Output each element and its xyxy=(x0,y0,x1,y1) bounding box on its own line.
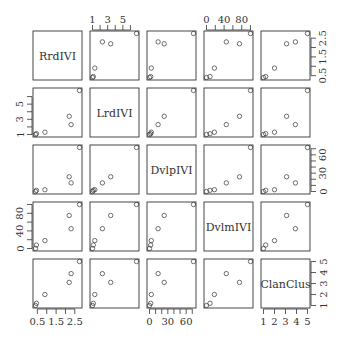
panel-frame xyxy=(33,88,82,137)
data-point xyxy=(212,66,216,70)
panel-RrdIVI-vs-LrdIVI xyxy=(90,31,139,80)
data-point xyxy=(191,31,195,35)
data-point xyxy=(67,175,71,179)
data-point xyxy=(156,40,160,44)
data-point xyxy=(93,238,97,242)
data-point xyxy=(293,227,297,231)
data-point xyxy=(77,88,81,92)
data-point xyxy=(305,88,309,92)
tick-label: 30 xyxy=(318,167,329,180)
panel-ClanClus-vs-DvlmIVI xyxy=(204,259,253,308)
tick-label: 0 xyxy=(203,14,209,25)
tick-label: 1.5 xyxy=(48,316,64,327)
tick-label: 0 xyxy=(318,188,329,194)
tick-label: 60 xyxy=(180,316,193,327)
tick-label: 2.5 xyxy=(318,30,329,46)
tick-label: 0.5 xyxy=(29,316,45,327)
data-point xyxy=(284,42,288,46)
data-point xyxy=(224,181,228,185)
panel-frame xyxy=(90,202,139,251)
tick-label: 2.5 xyxy=(67,316,83,327)
data-point xyxy=(67,114,71,118)
panel-frame xyxy=(204,259,253,308)
data-point xyxy=(149,132,153,136)
tick-label: 4 xyxy=(318,269,329,275)
data-point xyxy=(77,145,81,149)
data-point xyxy=(212,292,216,296)
data-point xyxy=(93,292,97,296)
left-axis-LrdIVI: 135 xyxy=(15,97,33,138)
panel-frame xyxy=(261,88,310,137)
data-point xyxy=(293,181,297,185)
data-point xyxy=(162,280,166,284)
panel-DvlmIVI-vs-DvlmIVI: DvlmIVI xyxy=(204,202,253,251)
panel-frame xyxy=(204,31,253,80)
data-point xyxy=(272,130,276,134)
panel-ClanClus-vs-DvlpIVI xyxy=(147,259,196,308)
data-point xyxy=(109,280,113,284)
panel-LrdIVI-vs-LrdIVI: LrdIVI xyxy=(90,88,139,137)
panel-ClanClus-vs-ClanClus: ClanClus xyxy=(260,259,311,308)
variable-label: DvlmIVI xyxy=(206,221,252,234)
data-point xyxy=(69,227,73,231)
data-point xyxy=(212,130,216,134)
data-point xyxy=(224,122,228,126)
tick-label: 5 xyxy=(120,14,126,25)
data-point xyxy=(305,31,309,35)
panel-LrdIVI-vs-ClanClus xyxy=(261,88,310,137)
data-point xyxy=(77,259,81,263)
tick-label: 1 xyxy=(318,302,329,308)
panel-frame xyxy=(33,145,82,194)
data-point xyxy=(212,188,216,192)
data-point xyxy=(248,259,252,263)
data-point xyxy=(162,213,166,217)
data-point xyxy=(34,188,38,192)
tick-label: 5 xyxy=(15,101,26,107)
panel-frame xyxy=(90,259,139,308)
tick-label: 5 xyxy=(318,258,329,264)
tick-label: 5 xyxy=(304,316,310,327)
data-point xyxy=(109,42,113,46)
right-axis-DvlpIVI: 03060 xyxy=(311,148,329,194)
data-point xyxy=(248,31,252,35)
top-axis-DvlmIVI: 04080 xyxy=(203,14,250,30)
scatterplot-matrix: RrdIVILrdIVIDvlpIVIDvlmIVIClanClus135040… xyxy=(0,0,346,347)
tick-label: 3 xyxy=(15,116,26,122)
data-point xyxy=(100,271,104,275)
data-point xyxy=(156,227,160,231)
data-point xyxy=(43,130,47,134)
data-point xyxy=(248,145,252,149)
data-point xyxy=(248,88,252,92)
data-point xyxy=(134,31,138,35)
panel-DvlmIVI-vs-ClanClus xyxy=(261,202,310,251)
tick-label: 3 xyxy=(282,316,288,327)
tick-label: 80 xyxy=(235,14,248,25)
data-point xyxy=(134,145,138,149)
data-point xyxy=(208,301,212,305)
data-point xyxy=(237,42,241,46)
panel-frame xyxy=(261,202,310,251)
right-axis-RrdIVI: 0.51.52.5 xyxy=(311,30,329,83)
panel-RrdIVI-vs-RrdIVI: RrdIVI xyxy=(33,31,82,80)
panel-DvlpIVI-vs-DvlmIVI xyxy=(204,145,253,194)
data-point xyxy=(109,175,113,179)
tick-label: 1 xyxy=(89,14,95,25)
data-point xyxy=(284,175,288,179)
panel-LrdIVI-vs-DvlmIVI xyxy=(204,88,253,137)
tick-label: 1 xyxy=(260,316,266,327)
data-point xyxy=(284,114,288,118)
data-point xyxy=(149,292,153,296)
data-point xyxy=(100,227,104,231)
data-point xyxy=(162,42,166,46)
data-point xyxy=(69,181,73,185)
data-point xyxy=(109,213,113,217)
panel-DvlmIVI-vs-RrdIVI xyxy=(33,202,82,251)
data-point xyxy=(224,271,228,275)
data-point xyxy=(162,114,166,118)
data-point xyxy=(191,88,195,92)
data-point xyxy=(305,145,309,149)
panel-frame xyxy=(33,259,82,308)
tick-label: 60 xyxy=(318,148,329,161)
variable-label: RrdIVI xyxy=(39,50,76,63)
data-point xyxy=(43,292,47,296)
